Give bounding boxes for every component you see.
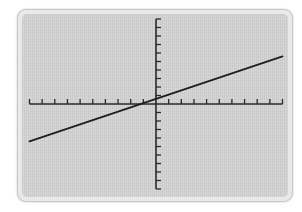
coordinate-plane: [0, 0, 302, 212]
